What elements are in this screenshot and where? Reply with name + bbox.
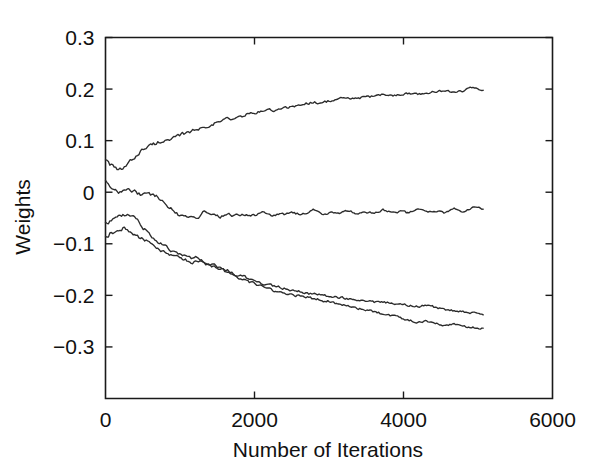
data-series-group (106, 87, 484, 329)
y-tick-label: 0 (83, 181, 95, 204)
y-axis-ticks (106, 38, 553, 347)
series-line-weight-4 (106, 227, 484, 329)
weights-vs-iterations-line-chart: −0.3−0.2−0.100.10.20.3 0200040006000 Wei… (0, 0, 606, 473)
x-axis-ticks (255, 38, 404, 399)
series-line-weight-3 (106, 214, 484, 314)
x-axis-tick-labels: 0200040006000 (100, 408, 576, 431)
x-tick-label: 2000 (231, 408, 278, 431)
y-tick-label: 0.2 (65, 78, 94, 101)
axes-frame (106, 38, 553, 399)
y-tick-label: −0.1 (53, 232, 94, 255)
x-tick-label: 0 (100, 408, 112, 431)
y-tick-label: 0.1 (65, 129, 94, 152)
series-line-weight-1 (106, 87, 484, 170)
series-line-weight-2 (106, 180, 484, 218)
y-tick-label: 0.3 (65, 26, 94, 49)
y-axis-title: Weights (11, 179, 34, 254)
axes-box (106, 38, 553, 399)
y-tick-label: −0.3 (53, 335, 94, 358)
x-tick-label: 4000 (380, 408, 427, 431)
x-axis-title: Number of Iterations (233, 438, 423, 461)
y-tick-label: −0.2 (53, 284, 94, 307)
y-axis-tick-labels: −0.3−0.2−0.100.10.20.3 (53, 26, 94, 358)
x-tick-label: 6000 (529, 408, 576, 431)
chart-figure: −0.3−0.2−0.100.10.20.3 0200040006000 Wei… (0, 0, 606, 473)
